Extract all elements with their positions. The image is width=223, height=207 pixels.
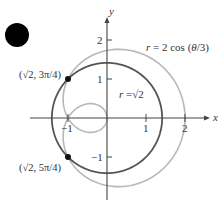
y-axis-arrow-icon — [105, 17, 110, 23]
x-tick-label: 1 — [143, 122, 149, 134]
label-inner-circle: r =√2 — [119, 88, 144, 100]
label-outer-curve: r = 2 cos (θ/3) — [146, 41, 209, 54]
x-tick-label: −1 — [61, 122, 73, 134]
y-axis-label: y — [108, 5, 114, 17]
x-tick-label: 2 — [182, 122, 188, 134]
x-axis-arrow-icon — [204, 116, 210, 121]
intersection-point-icon — [65, 154, 71, 160]
x-axis-label: x — [212, 111, 218, 123]
y-tick-label: 2 — [97, 34, 103, 46]
y-tick-label: −1 — [91, 151, 103, 163]
polar-graph: xy−11221−1 r = 2 cos (θ/3) r =√2 (√2, 3π… — [0, 0, 223, 207]
bullet-marker-icon — [5, 23, 29, 47]
label-point-bottom: (√2, 5π/4) — [19, 162, 61, 174]
label-point-top: (√2, 3π/4) — [19, 69, 61, 81]
intersection-point-icon — [65, 76, 71, 82]
y-tick-label: 1 — [97, 73, 103, 85]
